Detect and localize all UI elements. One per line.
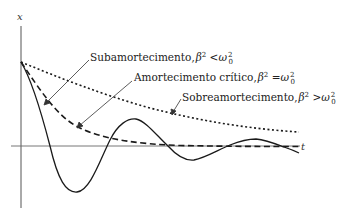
label-overdamped: Sobreamortecimento,β2 >ω20: [182, 91, 336, 106]
damped-oscillation-diagram: x t Subamortecimento,β2 <ω20 Amortecimen…: [0, 0, 339, 219]
y-axis-label: x: [17, 11, 23, 22]
label-underdamped: Subamortecimento,β2 <ω20: [90, 51, 233, 66]
label-critical: Amortecimento crítico,β2 =ω20: [133, 71, 295, 86]
t-axis-label: t: [301, 141, 306, 152]
arrow-critical: [79, 81, 132, 126]
arrow-underdamped: [46, 60, 89, 103]
